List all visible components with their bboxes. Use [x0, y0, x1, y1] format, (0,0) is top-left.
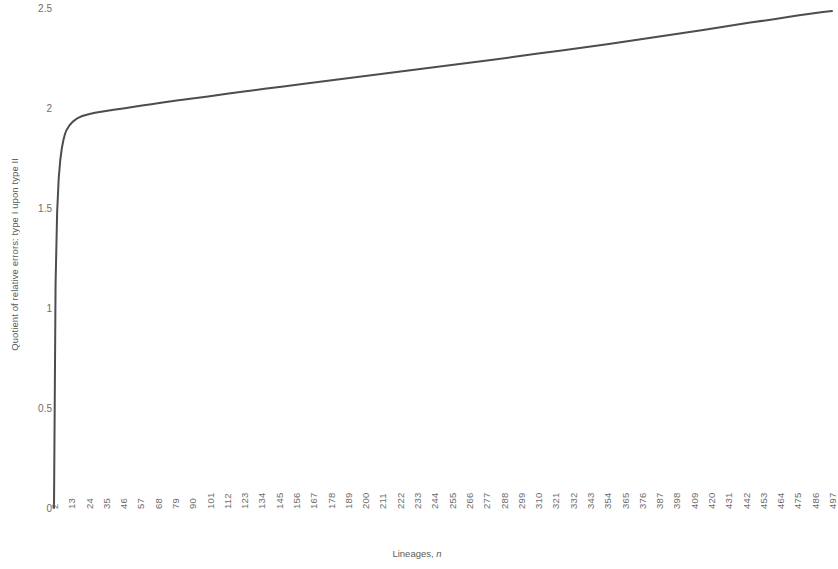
x-tick-label: 310 — [533, 493, 544, 509]
y-tick-label: 1 — [8, 303, 52, 314]
x-tick-label: 244 — [429, 493, 440, 509]
x-tick-label: 156 — [291, 493, 302, 509]
x-tick-label: 189 — [342, 493, 353, 509]
x-tick-label: 299 — [515, 493, 526, 509]
x-axis-title-label: Lineages, — [392, 548, 433, 559]
x-tick-label: 277 — [481, 493, 492, 509]
x-tick-label: 475 — [792, 493, 803, 509]
x-tick-label: 332 — [567, 493, 578, 509]
x-tick-label: 321 — [550, 493, 561, 509]
y-tick-label: 0.5 — [8, 403, 52, 414]
x-axis-title: Lineages, n — [0, 548, 834, 559]
x-tick-label: 266 — [463, 493, 474, 509]
x-tick-label: 497 — [827, 493, 838, 509]
x-tick-label: 145 — [273, 493, 284, 509]
x-tick-label: 255 — [446, 493, 457, 509]
y-axis-tick-labels: 2.521.510.50 — [0, 0, 52, 569]
x-tick-label: 486 — [809, 493, 820, 509]
x-tick-label: 46 — [118, 498, 129, 509]
x-axis-tick-labels: 2132435465768799010111212313414515616717… — [54, 509, 832, 549]
x-tick-label: 68 — [152, 498, 163, 509]
x-tick-label: 13 — [66, 498, 77, 509]
x-tick-label: 442 — [740, 493, 751, 509]
x-tick-label: 343 — [584, 493, 595, 509]
y-tick-label: 2 — [8, 103, 52, 114]
x-tick-label: 134 — [256, 493, 267, 509]
x-tick-label: 288 — [498, 493, 509, 509]
data-series-line — [54, 11, 832, 508]
x-tick-label: 233 — [412, 493, 423, 509]
x-tick-label: 35 — [100, 498, 111, 509]
x-tick-label: 464 — [775, 493, 786, 509]
x-tick-label: 24 — [83, 498, 94, 509]
x-tick-label: 200 — [360, 493, 371, 509]
y-tick-label: 2.5 — [8, 3, 52, 14]
x-tick-label: 453 — [757, 493, 768, 509]
plot-area — [54, 8, 832, 508]
x-tick-label: 376 — [636, 493, 647, 509]
x-tick-label: 79 — [170, 498, 181, 509]
x-tick-label: 222 — [394, 493, 405, 509]
x-tick-label: 398 — [671, 493, 682, 509]
y-tick-label: 0 — [8, 503, 52, 514]
x-tick-label: 123 — [239, 493, 250, 509]
x-tick-label: 211 — [377, 493, 388, 509]
plot-svg — [54, 8, 832, 508]
x-tick-label: 178 — [325, 493, 336, 509]
x-tick-label: 167 — [308, 493, 319, 509]
x-tick-label: 365 — [619, 493, 630, 509]
x-tick-label: 431 — [723, 493, 734, 509]
x-tick-label: 112 — [221, 493, 232, 509]
x-tick-label: 420 — [705, 493, 716, 509]
x-tick-label: 101 — [204, 493, 215, 509]
x-tick-label: 354 — [602, 493, 613, 509]
x-tick-label: 387 — [654, 493, 665, 509]
x-tick-label: 409 — [688, 493, 699, 509]
x-tick-label: 57 — [135, 498, 146, 509]
x-tick-label: 90 — [187, 498, 198, 509]
x-axis-title-variable: n — [436, 548, 441, 559]
y-tick-label: 1.5 — [8, 203, 52, 214]
x-tick-label: 2 — [49, 504, 60, 509]
